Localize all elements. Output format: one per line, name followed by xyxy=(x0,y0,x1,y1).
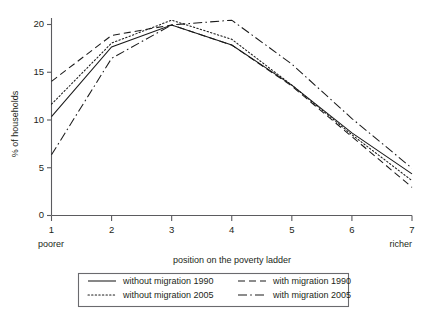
x-axis-title: position on the poverty ladder xyxy=(173,255,291,265)
x-tick-label: 3 xyxy=(169,224,174,235)
richer-label: richer xyxy=(389,239,412,249)
series-group xyxy=(52,20,413,187)
y-tick-label: 15 xyxy=(33,66,44,77)
y-tick-label: 20 xyxy=(33,18,44,29)
x-tick-marks xyxy=(52,216,413,222)
legend-entries: without migration 1990with migration 199… xyxy=(88,276,351,300)
x-tick-label: 6 xyxy=(349,224,354,235)
y-axis-title: % of households xyxy=(10,90,20,157)
x-tick-label: 1 xyxy=(49,224,54,235)
y-tick-label: 10 xyxy=(33,114,44,125)
series-line xyxy=(52,20,413,180)
legend-label: without migration 1990 xyxy=(122,276,214,286)
x-tick-labels: 1234567 xyxy=(49,224,415,235)
y-tick-labels: 05101520 xyxy=(33,18,44,220)
series-line xyxy=(52,20,413,168)
x-tick-label: 5 xyxy=(289,224,294,235)
y-tick-label: 5 xyxy=(39,162,44,173)
x-tick-label: 7 xyxy=(409,224,414,235)
y-tick-marks xyxy=(47,25,52,216)
poverty-ladder-chart: % of households 05101520 1234567 poorer … xyxy=(0,0,427,315)
poorer-label: poorer xyxy=(38,239,64,249)
legend-label: with migration 1990 xyxy=(272,276,351,286)
legend-label: without migration 2005 xyxy=(122,290,214,300)
y-tick-label: 0 xyxy=(39,209,44,220)
x-tick-label: 4 xyxy=(229,224,234,235)
x-tick-label: 2 xyxy=(109,224,114,235)
series-line xyxy=(52,25,413,174)
legend-label: with migration 2005 xyxy=(272,290,351,300)
